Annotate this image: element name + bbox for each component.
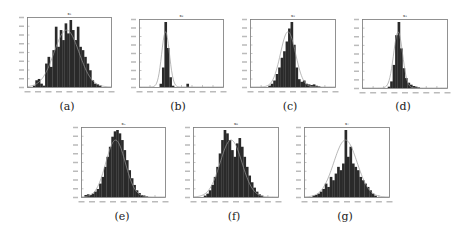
- x-tick-label: [333, 91, 339, 93]
- histogram-panel-d: x₄: [362, 19, 448, 89]
- y-tick-label: [296, 162, 301, 164]
- x-tick-label: [355, 201, 361, 203]
- histogram-panel-b: x₂: [139, 19, 224, 88]
- x-tick-label: [365, 201, 371, 203]
- y-tick-label: [296, 179, 301, 181]
- x-tick-label: [163, 201, 169, 203]
- panel-caption-c: (c): [270, 100, 310, 113]
- y-tick-label: [19, 52, 24, 54]
- histogram-plot: x₃: [250, 19, 336, 88]
- x-tick-label: [269, 91, 275, 93]
- y-tick-label: [73, 197, 78, 199]
- x-tick-label: [376, 201, 382, 203]
- histogram-plot: x₆: [193, 127, 279, 198]
- x-tick-label: [25, 91, 31, 93]
- panel-caption-b: (b): [158, 100, 198, 113]
- x-tick-label: [434, 92, 440, 94]
- y-tick-label: [296, 144, 301, 146]
- x-tick-label: [302, 201, 308, 203]
- y-tick-label: [354, 62, 359, 64]
- x-tick-label: [370, 92, 376, 94]
- y-tick-label: [354, 19, 359, 21]
- y-tick-label: [296, 197, 301, 199]
- x-tick-label: [301, 91, 307, 93]
- histogram-plot: x₅: [81, 127, 166, 198]
- x-tick-label: [147, 91, 153, 93]
- x-tick-label: [109, 91, 115, 93]
- y-tick-label: [185, 162, 190, 164]
- histogram-panel-a: x₁: [27, 17, 112, 88]
- x-tick-label: [89, 201, 95, 203]
- y-tick-label: [242, 70, 247, 72]
- x-tick-label: [311, 91, 317, 93]
- x-tick-label: [333, 201, 339, 203]
- y-tick-label: [131, 87, 136, 89]
- x-tick-label: [131, 201, 137, 203]
- y-tick-label: [296, 171, 301, 173]
- x-tick-label: [100, 201, 106, 203]
- y-tick-label: [19, 34, 24, 36]
- y-tick-label: [19, 43, 24, 45]
- x-tick-label: [391, 92, 397, 94]
- y-tick-label: [185, 144, 190, 146]
- x-tick-label: [233, 201, 239, 203]
- y-tick-label: [354, 71, 359, 73]
- y-tick-label: [131, 78, 136, 80]
- y-tick-label: [185, 188, 190, 190]
- y-tick-label: [131, 19, 136, 21]
- panel-caption-g: (g): [325, 210, 365, 223]
- y-tick-label: [131, 44, 136, 46]
- panel-title: x₆: [234, 121, 238, 126]
- y-tick-label: [242, 87, 247, 89]
- histogram-plot: x₄: [362, 19, 448, 89]
- y-tick-label: [73, 127, 78, 129]
- x-tick-label: [46, 91, 52, 93]
- x-tick-label: [67, 91, 73, 93]
- y-tick-label: [185, 197, 190, 199]
- x-tick-label: [142, 201, 148, 203]
- y-tick-label: [242, 44, 247, 46]
- y-tick-label: [131, 53, 136, 55]
- y-tick-label: [296, 136, 301, 138]
- x-tick-label: [323, 201, 329, 203]
- x-tick-label: [121, 201, 127, 203]
- y-tick-label: [19, 87, 24, 89]
- x-tick-label: [244, 201, 250, 203]
- y-tick-label: [73, 171, 78, 173]
- panel-caption-f: (f): [214, 210, 254, 223]
- histogram-panel-c: x₃: [250, 19, 336, 88]
- histogram-plot: x₂: [139, 19, 224, 88]
- y-tick-label: [296, 188, 301, 190]
- y-tick-label: [73, 162, 78, 164]
- y-tick-label: [242, 27, 247, 29]
- x-tick-label: [98, 91, 104, 93]
- histogram-panel-e: x₅: [81, 127, 166, 198]
- y-tick-label: [131, 36, 136, 38]
- x-tick-label: [322, 91, 328, 93]
- y-tick-label: [73, 153, 78, 155]
- y-tick-label: [242, 36, 247, 38]
- y-tick-label: [242, 78, 247, 80]
- x-tick-label: [290, 91, 296, 93]
- y-tick-label: [19, 78, 24, 80]
- panel-title: x₇: [345, 121, 349, 126]
- x-tick-label: [110, 201, 116, 203]
- y-tick-label: [185, 153, 190, 155]
- x-tick-label: [168, 91, 174, 93]
- x-tick-label: [387, 201, 393, 203]
- y-tick-label: [185, 171, 190, 173]
- y-tick-label: [296, 153, 301, 155]
- histogram-panel-g: x₇: [304, 127, 390, 198]
- panel-title: x₅: [122, 121, 126, 126]
- x-tick-label: [381, 92, 387, 94]
- x-tick-label: [221, 91, 227, 93]
- panel-caption-a: (a): [47, 100, 87, 113]
- y-tick-label: [185, 179, 190, 181]
- panel-title: x₁: [68, 11, 72, 16]
- x-tick-label: [189, 91, 195, 93]
- x-tick-label: [79, 201, 85, 203]
- histogram-panel-f: x₆: [193, 127, 279, 198]
- x-tick-label: [77, 91, 83, 93]
- y-tick-label: [354, 79, 359, 81]
- y-tick-label: [185, 127, 190, 129]
